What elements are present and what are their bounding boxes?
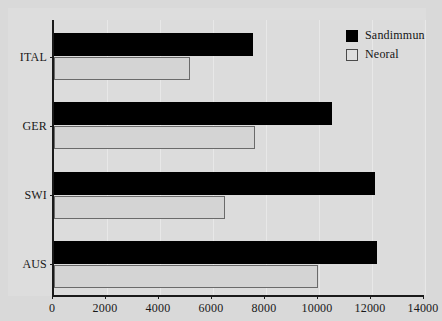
legend-item-sandimmun: Sandimmun <box>346 28 425 43</box>
bar-ger-neoral <box>54 126 255 149</box>
y-axis-category-labels: ITALGERSWIAUS <box>8 20 50 297</box>
legend-swatch-neoral-icon <box>346 49 358 61</box>
x-axis-tick <box>52 295 53 299</box>
x-axis-label-14000: 14000 <box>408 301 439 316</box>
bar-swi-sandimmun <box>54 172 375 195</box>
bar-swi-neoral <box>54 196 225 219</box>
x-axis-label-6000: 6000 <box>199 301 224 316</box>
legend-item-neoral: Neoral <box>346 47 425 62</box>
x-axis-label-2000: 2000 <box>93 301 118 316</box>
bar-aus-neoral <box>54 265 318 288</box>
x-axis-label-8000: 8000 <box>252 301 277 316</box>
x-axis-tick <box>158 295 159 299</box>
bar-ital-sandimmun <box>54 33 253 56</box>
legend-swatch-sandimmun-icon <box>346 30 358 42</box>
y-axis-label-swi: SWI <box>24 188 47 203</box>
y-axis-label-ger: GER <box>22 118 47 133</box>
x-axis-label-10000: 10000 <box>302 301 333 316</box>
x-axis-label-0: 0 <box>49 301 55 316</box>
x-axis-tick-labels: 02000400060008000100001200014000 <box>52 299 423 321</box>
x-axis-tick <box>211 295 212 299</box>
legend-label-sandimmun: Sandimmun <box>365 28 425 43</box>
chart-canvas: ITALGERSWIAUS 02000400060008000100001200… <box>8 8 426 296</box>
x-axis-tick <box>105 295 106 299</box>
gridline <box>425 20 426 295</box>
x-axis-tick <box>317 295 318 299</box>
x-axis-label-12000: 12000 <box>355 301 386 316</box>
x-axis-tick <box>264 295 265 299</box>
x-axis-tick <box>423 295 424 299</box>
bar-aus-sandimmun <box>54 241 377 264</box>
bar-ital-neoral <box>54 57 190 80</box>
bar-ger-sandimmun <box>54 102 332 125</box>
legend-label-neoral: Neoral <box>365 47 399 62</box>
y-axis-label-ital: ITAL <box>20 49 47 64</box>
chart-legend: Sandimmun Neoral <box>346 28 425 66</box>
x-axis-tick <box>370 295 371 299</box>
chart-figure: ITALGERSWIAUS 02000400060008000100001200… <box>0 0 442 321</box>
y-axis-label-aus: AUS <box>22 257 47 272</box>
x-axis-label-4000: 4000 <box>146 301 171 316</box>
